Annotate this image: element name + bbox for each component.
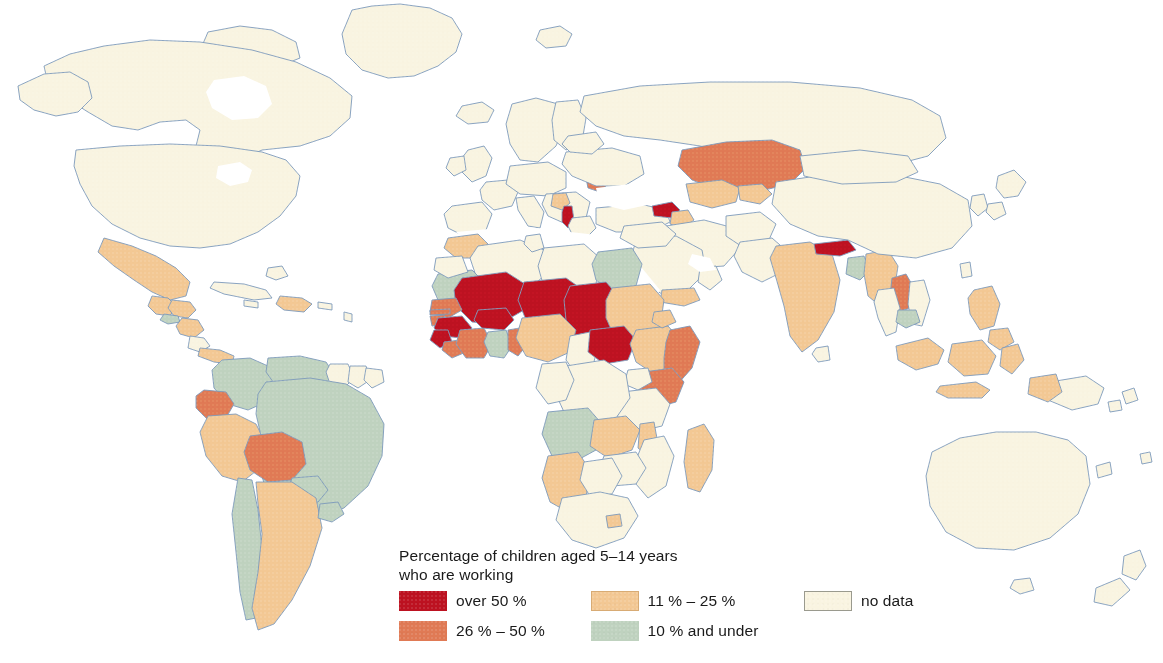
map-figure: Percentage of children aged 5–14 years w… [0, 0, 1163, 663]
legend-item-under10[interactable]: 10 % and under [591, 619, 784, 643]
legend-label-over50: over 50 % [456, 592, 527, 610]
region-fiji[interactable] [1140, 452, 1152, 464]
legend-swatch-over50 [399, 591, 447, 611]
legend-swatch-under10 [591, 621, 639, 641]
region-taiwan[interactable] [960, 262, 972, 278]
legend-item-nodata[interactable]: no data [804, 589, 939, 613]
legend-item-over50[interactable]: over 50 % [399, 589, 571, 613]
region-gambia[interactable] [430, 309, 450, 315]
legend-title: Percentage of children aged 5–14 years w… [399, 546, 939, 584]
region-lesser-antilles[interactable] [344, 312, 352, 322]
legend-label-nodata: no data [861, 592, 913, 610]
legend-label-11to25: 11 % – 25 % [648, 592, 736, 610]
legend-label-26to50: 26 % – 50 % [456, 622, 545, 640]
legend-swatch-26to50 [399, 621, 447, 641]
legend-swatch-nodata [804, 591, 852, 611]
legend-swatch-11to25 [591, 591, 639, 611]
map-legend: Percentage of children aged 5–14 years w… [399, 546, 939, 643]
legend-item-26to50[interactable]: 26 % – 50 % [399, 619, 571, 643]
region-germany-poland[interactable] [506, 162, 566, 196]
region-solomon-islands[interactable] [1108, 400, 1122, 412]
legend-label-under10: 10 % and under [648, 622, 759, 640]
region-mongolia[interactable] [800, 150, 918, 184]
legend-swatch-grid: over 50 % 11 % – 25 % no data 26 % – 50 … [399, 589, 939, 643]
region-lesotho[interactable] [606, 514, 622, 528]
legend-item-11to25[interactable]: 11 % – 25 % [591, 589, 784, 613]
